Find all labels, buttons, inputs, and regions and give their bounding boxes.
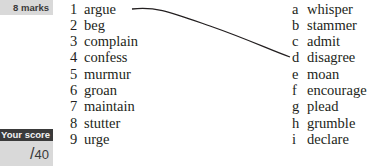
item-letter: a	[292, 1, 307, 17]
item-letter: d	[292, 49, 307, 65]
right-item-e[interactable]: emoan	[292, 66, 339, 82]
item-word: confess	[84, 49, 128, 65]
left-item-5[interactable]: 5murmur	[70, 66, 131, 82]
item-word: encourage	[307, 82, 367, 98]
item-word: murmur	[84, 66, 131, 82]
item-letter: c	[292, 33, 307, 49]
left-item-8[interactable]: 8stutter	[70, 115, 120, 131]
item-letter: h	[292, 115, 307, 131]
score-box[interactable]: /40	[0, 141, 53, 166]
right-item-a[interactable]: awhisper	[292, 1, 353, 17]
item-word: declare	[307, 131, 349, 147]
item-letter: f	[292, 82, 307, 98]
item-word: whisper	[307, 1, 353, 17]
item-number: 1	[70, 1, 84, 17]
score-total: 40	[35, 147, 49, 162]
left-item-6[interactable]: 6groan	[70, 82, 117, 98]
item-word: beg	[84, 17, 105, 33]
item-word: groan	[84, 82, 117, 98]
item-number: 4	[70, 49, 84, 65]
marks-label: 8 marks	[0, 0, 53, 15]
item-number: 5	[70, 66, 84, 82]
right-item-f[interactable]: fencourage	[292, 82, 367, 98]
left-item-2[interactable]: 2beg	[70, 17, 105, 33]
right-item-g[interactable]: gplead	[292, 98, 338, 114]
item-number: 3	[70, 33, 84, 49]
item-number: 9	[70, 131, 84, 147]
item-word: stammer	[307, 17, 357, 33]
item-letter: g	[292, 98, 307, 114]
item-number: 8	[70, 115, 84, 131]
item-letter: e	[292, 66, 307, 82]
left-item-4[interactable]: 4confess	[70, 49, 128, 65]
item-letter: b	[292, 17, 307, 33]
item-number: 2	[70, 17, 84, 33]
item-word: urge	[84, 131, 110, 147]
right-item-b[interactable]: bstammer	[292, 17, 357, 33]
right-item-c[interactable]: cadmit	[292, 33, 340, 49]
item-word: grumble	[307, 115, 355, 131]
item-word: moan	[307, 66, 339, 82]
item-word: disagree	[307, 49, 355, 65]
item-word: admit	[307, 33, 340, 49]
item-word: complain	[84, 33, 138, 49]
left-item-7[interactable]: 7maintain	[70, 98, 135, 114]
item-word: plead	[307, 98, 338, 114]
score-header: Your score	[0, 129, 53, 141]
left-item-9[interactable]: 9urge	[70, 131, 110, 147]
left-item-1[interactable]: 1argue	[70, 1, 116, 17]
item-word: argue	[84, 1, 116, 17]
item-number: 7	[70, 98, 84, 114]
right-item-h[interactable]: hgrumble	[292, 115, 355, 131]
item-word: stutter	[84, 115, 120, 131]
right-item-d[interactable]: ddisagree	[292, 49, 355, 65]
item-word: maintain	[84, 98, 135, 114]
item-letter: i	[292, 131, 307, 147]
right-item-i[interactable]: ideclare	[292, 131, 349, 147]
left-item-3[interactable]: 3complain	[70, 33, 138, 49]
item-number: 6	[70, 82, 84, 98]
